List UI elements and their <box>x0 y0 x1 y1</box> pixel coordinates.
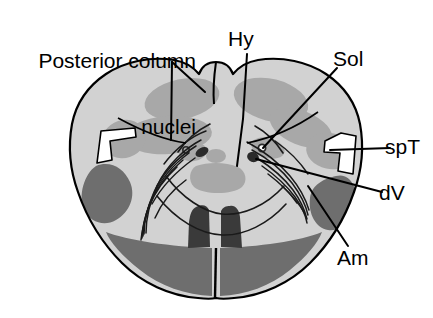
hypoglossal-nucleus <box>206 149 226 163</box>
label-posterior-column-nuclei-line2: nuclei <box>13 116 196 138</box>
label-spt: spT <box>385 136 420 158</box>
label-am: Am <box>337 247 369 269</box>
central-gray-mass <box>190 163 245 193</box>
anterior-median-fissure <box>215 248 216 298</box>
label-posterior-column-nuclei: Posterior column nuclei <box>13 6 196 182</box>
label-posterior-column-nuclei-line1: Posterior column <box>13 50 196 72</box>
figure-container: Posterior column nuclei Hy Sol spT dV Am <box>0 0 433 318</box>
label-sol: Sol <box>333 48 363 70</box>
medial-lemniscus-right <box>221 206 242 248</box>
label-dv: dV <box>379 182 405 204</box>
label-hy: Hy <box>228 28 254 50</box>
